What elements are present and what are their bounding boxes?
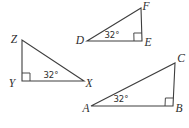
triangle-DFE: DFE32° xyxy=(75,0,152,48)
triangle-DFE-vertex-label-E: E xyxy=(143,36,151,48)
triangle-DFE-right-angle-marker xyxy=(134,33,142,41)
triangle-ACB-vertex-label-A: A xyxy=(81,102,90,114)
triangle-ZYX-right-angle-marker xyxy=(22,73,30,81)
similar-triangles-diagram: ZYX32°DFE32°ACB32° xyxy=(0,0,189,128)
triangle-ACB-vertex-label-C: C xyxy=(177,52,185,64)
triangle-ZYX-vertex-label-Y: Y xyxy=(9,77,17,89)
triangle-DFE-vertex-label-D: D xyxy=(75,34,85,46)
triangle-ACB-right-angle-marker xyxy=(165,98,173,106)
triangle-DFE-vertex-label-F: F xyxy=(141,0,150,12)
triangle-ZYX-vertex-label-X: X xyxy=(84,77,93,89)
triangle-ZYX-vertex-label-Z: Z xyxy=(11,33,18,45)
geometry-figure: ZYX32°DFE32°ACB32° xyxy=(0,0,189,128)
triangle-ZYX-angle-label: 32° xyxy=(43,70,58,80)
triangle-ACB-angle-label: 32° xyxy=(113,94,128,104)
triangle-ACB-outline xyxy=(91,63,175,106)
triangle-DFE-angle-label: 32° xyxy=(104,30,119,40)
triangle-ACB: ACB32° xyxy=(81,52,185,114)
triangle-ACB-vertex-label-B: B xyxy=(175,102,182,114)
